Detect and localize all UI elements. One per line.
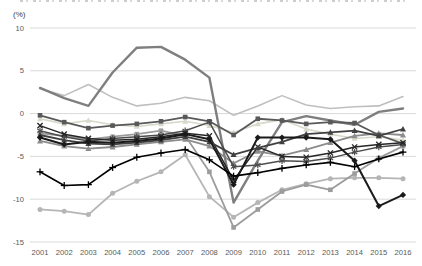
clipped-title-row bbox=[20, 0, 410, 2]
x-tick-label: 2002 bbox=[56, 248, 73, 257]
y-tick-label: -10 bbox=[13, 195, 24, 204]
y-tick-label: 10 bbox=[16, 24, 24, 33]
series-light-gray-line bbox=[40, 84, 403, 115]
x-tick-label: 2013 bbox=[322, 248, 339, 257]
plot-area bbox=[37, 47, 407, 230]
chart-page: (%) 1050-5-10-15 20012002200320042005200… bbox=[0, 0, 422, 266]
line-chart: (%) 1050-5-10-15 20012002200320042005200… bbox=[0, 0, 422, 266]
x-axis-tick-labels: 2001200220032004200520062007200820092010… bbox=[32, 248, 412, 257]
x-tick-label: 2008 bbox=[201, 248, 218, 257]
x-tick-label: 2007 bbox=[177, 248, 194, 257]
x-tick-label: 2005 bbox=[128, 248, 145, 257]
x-tick-label: 2009 bbox=[225, 248, 242, 257]
x-tick-label: 2014 bbox=[346, 248, 363, 257]
x-tick-label: 2010 bbox=[249, 248, 266, 257]
y-tick-label: 5 bbox=[20, 66, 24, 75]
y-tick-label: 0 bbox=[20, 109, 24, 118]
y-axis-unit-label: (%) bbox=[13, 10, 26, 19]
series-thick-gray-line bbox=[40, 47, 403, 203]
y-axis-tick-labels: 1050-5-10-15 bbox=[13, 24, 24, 247]
x-tick-label: 2001 bbox=[32, 248, 49, 257]
x-tick-label: 2015 bbox=[370, 248, 387, 257]
x-tick-label: 2011 bbox=[274, 248, 290, 257]
x-tick-label: 2004 bbox=[104, 248, 121, 257]
x-tick-label: 2016 bbox=[395, 248, 412, 257]
x-tick-label: 2012 bbox=[298, 248, 315, 257]
y-tick-label: -5 bbox=[17, 152, 24, 161]
y-tick-label: -15 bbox=[13, 238, 24, 247]
x-tick-label: 2003 bbox=[80, 248, 97, 257]
x-tick-label: 2006 bbox=[153, 248, 170, 257]
